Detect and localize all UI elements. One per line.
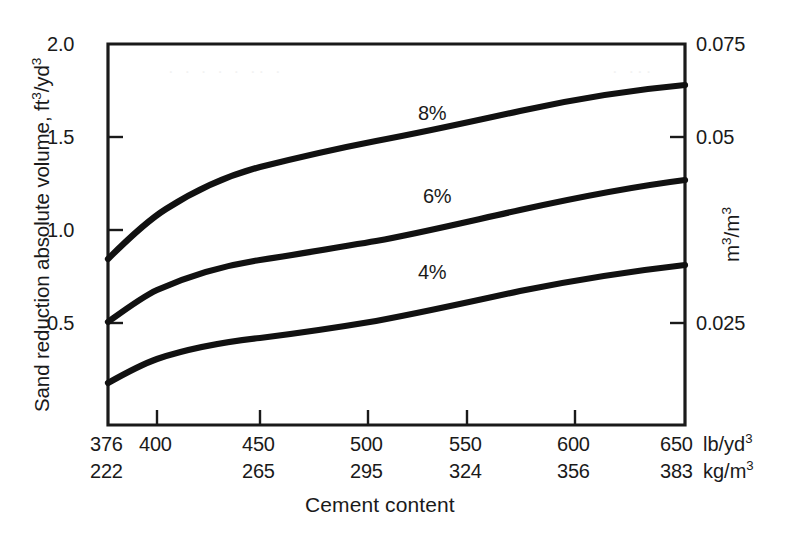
x-axis-ticks [157, 410, 575, 425]
curve-4-percent [108, 265, 685, 383]
y-axis-title-sup-2: 3 [29, 58, 44, 65]
xtick-label-383: 383 [660, 461, 693, 481]
y2-axis-title-text: m [720, 245, 743, 262]
y-axis-ticks [108, 137, 123, 323]
x-unit-primary-text: lb/yd [703, 433, 745, 455]
xtick-label-295: 295 [350, 461, 383, 481]
x-unit-secondary: kg/m3 [703, 461, 754, 481]
y-axis-title-text: Sand reduction absolute volume, ft [30, 100, 53, 412]
y-axis-title-sup-1: 3 [29, 92, 44, 99]
x-unit-secondary-sup: 3 [746, 458, 753, 473]
xtick-label-400: 400 [139, 434, 172, 454]
y2tick-label-0-075: 0.075 [696, 34, 745, 54]
xtick-label-550: 550 [449, 434, 482, 454]
y2-axis-title-sup-2: 3 [719, 207, 734, 215]
xtick-label-500: 500 [350, 434, 383, 454]
y2-axis-ticks [670, 137, 685, 323]
xtick-label-600: 600 [557, 434, 590, 454]
y2tick-label-0-025: 0.025 [696, 313, 745, 333]
curve-6-percent [108, 180, 685, 322]
y2-axis-title-sup-1: 3 [719, 237, 734, 245]
figure-container: · · · · · ·· · · ··· 2.0 [0, 0, 798, 534]
y2tick-label-0-05: 0.05 [696, 127, 734, 147]
x-unit-primary-sup: 3 [745, 431, 752, 446]
curve-8-percent [108, 85, 685, 259]
x-unit-secondary-text: kg/m [703, 460, 746, 482]
y-axis-title-mid: /yd [30, 65, 53, 92]
xtick-label-376: 376 [90, 434, 123, 454]
xtick-label-450: 450 [242, 434, 275, 454]
xtick-label-324: 324 [449, 461, 482, 481]
ytick-label-2-0: 2.0 [47, 34, 74, 54]
y-axis-title: Sand reduction absolute volume, ft3/yd3 [32, 58, 53, 412]
xtick-label-650: 650 [660, 434, 693, 454]
x-unit-primary: lb/yd3 [703, 434, 753, 454]
xtick-label-222: 222 [90, 461, 123, 481]
series-label-8-percent: 8% [418, 103, 446, 123]
xtick-label-265: 265 [242, 461, 275, 481]
y2-axis-title-mid: /m [720, 215, 743, 238]
xtick-label-356: 356 [557, 461, 590, 481]
x-axis-title: Cement content [305, 494, 455, 515]
y2-axis-title: m3/m3 [722, 207, 743, 262]
series-label-4-percent: 4% [418, 262, 446, 282]
series-label-6-percent: 6% [423, 186, 451, 206]
